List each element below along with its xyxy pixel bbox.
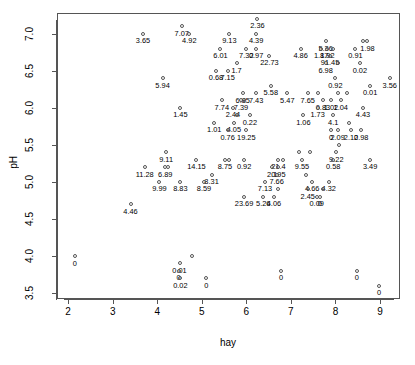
data-point (324, 61, 328, 65)
data-point-label: 0.02 (353, 67, 367, 74)
y-tick (52, 145, 56, 146)
x-tick-label: 4 (154, 306, 160, 317)
data-point (331, 158, 335, 162)
x-tick (113, 300, 114, 304)
data-point (388, 76, 392, 80)
data-point (244, 128, 248, 132)
data-point (227, 32, 231, 36)
data-point (254, 32, 258, 36)
data-point (316, 91, 320, 95)
data-point-label: 3.65 (136, 37, 150, 44)
data-point (300, 158, 304, 162)
data-point-label: 1.45 (173, 111, 187, 118)
data-point-label: 0.22 (243, 119, 257, 126)
data-point (194, 158, 198, 162)
data-point (336, 61, 340, 65)
data-point (347, 121, 351, 125)
data-point (276, 165, 280, 169)
y-tick-label: 4.5 (24, 212, 35, 226)
y-tick-label: 6.0 (24, 101, 35, 115)
data-point (345, 91, 349, 95)
data-point-label: 4.92 (182, 37, 196, 44)
data-point (358, 61, 362, 65)
x-tick (157, 300, 158, 304)
x-tick-label: 5 (199, 306, 205, 317)
data-point (166, 165, 170, 169)
data-point (212, 121, 216, 125)
data-point (319, 47, 323, 51)
data-point (190, 254, 194, 258)
plot-data-area: 2.367.073.654.929.134.395.361.986.017.32… (0, 0, 415, 365)
data-point (336, 128, 340, 132)
data-point (178, 106, 182, 110)
data-point (324, 39, 328, 43)
data-point-label: 0 (204, 282, 208, 289)
data-point (368, 158, 372, 162)
data-point (143, 165, 147, 169)
data-point-label: 8.59 (197, 185, 211, 192)
data-point (73, 254, 77, 258)
data-point-label: 9.55 (295, 163, 309, 170)
data-point-label: 14.15 (187, 163, 206, 170)
data-point (331, 113, 335, 117)
x-tick (291, 300, 292, 304)
x-tick-label: 7 (288, 306, 294, 317)
data-point (202, 180, 206, 184)
y-tick (52, 256, 56, 257)
y-tick (52, 71, 56, 72)
data-point (214, 69, 218, 73)
y-tick-label: 5.0 (24, 175, 35, 189)
data-point (269, 84, 273, 88)
data-point (157, 180, 161, 184)
data-point-label: 6.89 (158, 171, 172, 178)
data-point-label: 0.58 (326, 163, 340, 170)
y-tick-label: 4.0 (24, 249, 35, 263)
y-tick-label-text: 3.5 (24, 286, 35, 300)
data-point-label: 0.02 (173, 282, 187, 289)
data-point (254, 47, 258, 51)
data-point (285, 91, 289, 95)
y-axis-title-text: pH (8, 156, 19, 169)
data-point (242, 98, 246, 102)
data-point-label: 1.04 (334, 104, 348, 111)
scatter-plot-figure: 2.367.073.654.929.134.395.361.986.017.32… (0, 0, 415, 365)
data-point-label: 0.91 (348, 52, 362, 59)
data-point-label: 9.99 (152, 185, 166, 192)
data-point-label: 7.13 (258, 185, 272, 192)
data-point-label: 19.25 (237, 134, 256, 141)
data-point (308, 150, 312, 154)
data-point (187, 32, 191, 36)
data-point (325, 47, 329, 51)
x-tick (202, 300, 203, 304)
data-point-label: 1.06 (296, 119, 310, 126)
y-axis-title: pH (8, 156, 19, 169)
data-point (232, 121, 236, 125)
x-tick-label: 9 (377, 306, 383, 317)
data-point (306, 187, 310, 191)
data-point-label: 7.43 (249, 97, 263, 104)
data-point (281, 158, 285, 162)
data-point (180, 24, 184, 28)
data-point (161, 76, 165, 80)
data-point (178, 276, 182, 280)
data-point-label: 0 (377, 289, 381, 296)
data-point (321, 98, 325, 102)
data-point (318, 195, 322, 199)
data-point (141, 32, 145, 36)
data-point-label: 22.73 (260, 59, 279, 66)
data-point (329, 128, 333, 132)
data-point-label: 4.46 (123, 208, 137, 215)
data-point-label: 6.01 (213, 52, 227, 59)
x-tick-label: 3 (110, 306, 116, 317)
x-tick (380, 300, 381, 304)
data-point-label: 4.1 (328, 119, 338, 126)
data-point (178, 261, 182, 265)
y-tick (52, 293, 56, 294)
data-point-label: 23.69 (235, 200, 254, 207)
data-point-label: 8.83 (173, 185, 187, 192)
y-tick (52, 182, 56, 183)
data-point-label: 7.15 (220, 74, 234, 81)
data-point (164, 150, 168, 154)
data-point (333, 76, 337, 80)
data-point-label: 0.01 (363, 89, 377, 96)
